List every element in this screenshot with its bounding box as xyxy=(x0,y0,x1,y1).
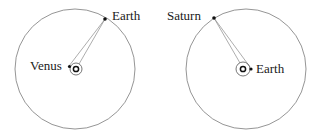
label-earth: Earth xyxy=(112,8,141,23)
diagram-venus-earth: Earth Venus xyxy=(15,8,141,129)
orbit-diagrams: Earth Venus Saturn Earth xyxy=(0,0,323,131)
sightline-1 xyxy=(214,18,240,63)
label-earth: Earth xyxy=(256,61,285,76)
diagram-earth-saturn: Saturn Earth xyxy=(167,8,306,129)
venus-dot xyxy=(68,65,71,68)
earth-dot xyxy=(249,67,252,70)
sightline-2 xyxy=(214,18,250,67)
earth-orbit-small xyxy=(236,62,250,76)
sun-icon xyxy=(240,66,245,71)
earth-dot xyxy=(103,17,107,21)
label-venus: Venus xyxy=(30,58,62,73)
sun-icon xyxy=(73,66,78,71)
sightline-1 xyxy=(69,19,105,66)
label-saturn: Saturn xyxy=(167,8,201,23)
sightline-2 xyxy=(79,19,105,64)
venus-orbit xyxy=(70,63,82,75)
saturn-dot xyxy=(212,16,216,20)
